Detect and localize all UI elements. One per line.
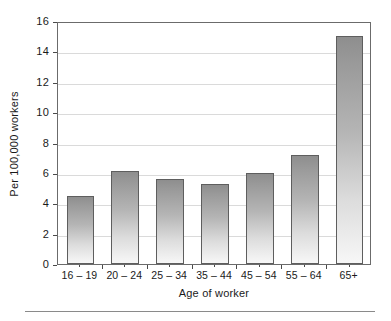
x-axis-minor-tick-mark [259, 265, 260, 267]
x-axis-minor-tick-mark [169, 265, 170, 267]
y-axis-tick-label: 6 [43, 166, 49, 181]
x-axis-tick-label: 35 – 44 [196, 268, 232, 283]
y-axis-tick: 12 [0, 83, 57, 84]
y-axis-tick: 10 [0, 113, 57, 114]
x-axis-tick-label: 45 – 54 [241, 268, 277, 283]
x-axis-tick-label: 16 – 19 [62, 268, 98, 283]
bar-chart-figure: Per 100,000 workers 0246810121416 16 – 1… [0, 0, 391, 321]
x-axis-tick-label: 55 – 64 [286, 268, 322, 283]
y-axis-tick-label: 12 [36, 75, 49, 90]
bar [111, 171, 139, 264]
y-axis-tick-label: 16 [36, 14, 49, 29]
x-axis-minor-tick-mark [304, 265, 305, 267]
x-axis-tick-label-group: 16 – 1920 – 2425 – 3435 – 4445 – 5455 – … [57, 268, 371, 284]
y-axis-tick: 4 [0, 204, 57, 205]
x-axis-minor-tick-mark [124, 265, 125, 267]
y-axis-tick: 6 [0, 174, 57, 175]
x-axis-tick-label: 20 – 24 [106, 268, 142, 283]
bar [246, 173, 274, 264]
x-axis-minor-tick-mark [214, 265, 215, 267]
y-axis-tick: 2 [0, 235, 57, 236]
bar-group [58, 23, 370, 264]
y-axis-tick-label: 2 [43, 227, 49, 242]
bar [201, 184, 229, 264]
bar [67, 196, 95, 264]
y-axis-tick-label: 4 [43, 196, 49, 211]
y-axis-tick-label: 10 [36, 105, 49, 120]
footer-divider [25, 311, 375, 312]
x-axis-minor-tick-mark [349, 265, 350, 267]
x-axis-title: Age of worker [57, 287, 371, 299]
y-axis-tick: 16 [0, 22, 57, 23]
y-axis-tick-label: 14 [36, 44, 49, 59]
plot-area [57, 22, 371, 265]
y-axis-tick-label: 8 [43, 136, 49, 151]
y-axis-tick: 8 [0, 144, 57, 145]
x-axis-tick-label: 25 – 34 [151, 268, 187, 283]
y-axis-tick-group: 0246810121416 [0, 22, 57, 265]
x-axis-tick-label: 65+ [340, 268, 358, 283]
y-axis-tick-label: 0 [43, 257, 49, 272]
bar [291, 155, 319, 264]
y-axis-tick: 0 [0, 265, 57, 266]
x-axis-minor-tick-mark [79, 265, 80, 267]
bar [156, 179, 184, 264]
bar [336, 36, 364, 264]
y-axis-tick: 14 [0, 52, 57, 53]
